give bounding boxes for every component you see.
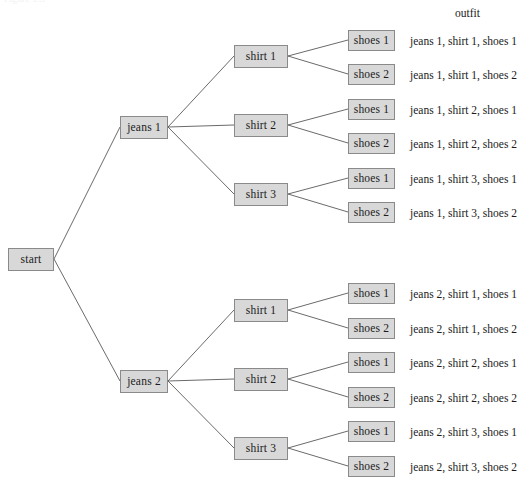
node-label: shirt 3 <box>246 443 276 455</box>
node-jeans-2[interactable]: jeans 2 <box>120 370 168 393</box>
node-shoes-7[interactable]: shoes 1 <box>348 283 395 304</box>
tree-edge <box>288 56 348 74</box>
tree-edge <box>168 127 234 194</box>
outfit-label-11: jeans 2, shirt 3, shoes 1 <box>410 427 517 439</box>
node-label: shirt 1 <box>246 305 276 317</box>
node-label: shoes 1 <box>354 426 390 438</box>
tree-diagram: Figure 1.3 outfit startjeans 1jeans 2shi… <box>0 0 525 493</box>
node-label: shoes 2 <box>354 138 390 150</box>
node-shirt-5[interactable]: shirt 2 <box>234 368 288 391</box>
node-label: jeans 2 <box>127 376 161 388</box>
node-shoes-4[interactable]: shoes 2 <box>348 133 395 154</box>
node-shoes-6[interactable]: shoes 2 <box>348 202 395 223</box>
node-shoes-8[interactable]: shoes 2 <box>348 318 395 339</box>
node-shoes-5[interactable]: shoes 1 <box>348 168 395 189</box>
tree-edge <box>288 379 348 397</box>
outfit-label-1: jeans 1, shirt 1, shoes 1 <box>410 36 517 48</box>
node-label: shoes 2 <box>354 323 390 335</box>
tree-edge <box>168 125 234 127</box>
outfit-label-6: jeans 1, shirt 3, shoes 2 <box>410 208 517 220</box>
tree-edge <box>288 362 348 379</box>
node-label: shoes 1 <box>354 357 390 369</box>
tree-edge <box>288 431 348 448</box>
node-label: shoes 1 <box>354 288 390 300</box>
tree-edge <box>288 194 348 212</box>
node-label: shirt 1 <box>246 51 276 63</box>
node-shoes-12[interactable]: shoes 2 <box>348 456 395 477</box>
tree-edge <box>168 310 234 381</box>
node-shoes-9[interactable]: shoes 1 <box>348 352 395 373</box>
caption-sliver: Figure 1.3 <box>4 0 45 4</box>
node-label: shirt 2 <box>246 374 276 386</box>
tree-edge <box>168 56 234 127</box>
tree-edge <box>288 125 348 143</box>
node-label: start <box>21 254 42 266</box>
node-shoes-3[interactable]: shoes 1 <box>348 99 395 120</box>
node-shoes-1[interactable]: shoes 1 <box>348 30 395 51</box>
column-header-outfit: outfit <box>455 8 480 20</box>
node-label: shoes 2 <box>354 461 390 473</box>
tree-edge <box>168 381 234 448</box>
node-label: shoes 2 <box>354 392 390 404</box>
tree-edge <box>288 293 348 310</box>
node-shirt-3[interactable]: shirt 3 <box>234 183 288 206</box>
tree-edge <box>288 448 348 466</box>
outfit-label-3: jeans 1, shirt 2, shoes 1 <box>410 105 517 117</box>
node-jeans-1[interactable]: jeans 1 <box>120 116 168 139</box>
node-label: shoes 1 <box>354 104 390 116</box>
tree-edge <box>54 259 120 381</box>
node-label: jeans 1 <box>127 122 161 134</box>
outfit-label-4: jeans 1, shirt 2, shoes 2 <box>410 139 517 151</box>
node-label: shoes 2 <box>354 69 390 81</box>
node-label: shoes 1 <box>354 173 390 185</box>
outfit-label-8: jeans 2, shirt 1, shoes 2 <box>410 324 517 336</box>
tree-edge <box>168 379 234 381</box>
node-shirt-4[interactable]: shirt 1 <box>234 299 288 322</box>
tree-edge <box>288 178 348 194</box>
node-start[interactable]: start <box>8 248 54 271</box>
node-label: shoes 1 <box>354 35 390 47</box>
node-shoes-2[interactable]: shoes 2 <box>348 64 395 85</box>
node-label: shirt 3 <box>246 189 276 201</box>
node-label: shirt 2 <box>246 120 276 132</box>
node-shirt-1[interactable]: shirt 1 <box>234 45 288 68</box>
tree-edge <box>288 310 348 328</box>
tree-edge <box>288 109 348 125</box>
outfit-label-2: jeans 1, shirt 1, shoes 2 <box>410 70 517 82</box>
outfit-label-7: jeans 2, shirt 1, shoes 1 <box>410 289 517 301</box>
outfit-label-5: jeans 1, shirt 3, shoes 1 <box>410 174 517 186</box>
node-shirt-2[interactable]: shirt 2 <box>234 114 288 137</box>
tree-edge <box>54 127 120 259</box>
outfit-label-12: jeans 2, shirt 3, shoes 2 <box>410 462 517 474</box>
outfit-label-9: jeans 2, shirt 2, shoes 1 <box>410 358 517 370</box>
outfit-label-10: jeans 2, shirt 2, shoes 2 <box>410 393 517 405</box>
node-shoes-10[interactable]: shoes 2 <box>348 387 395 408</box>
node-shirt-6[interactable]: shirt 3 <box>234 437 288 460</box>
node-shoes-11[interactable]: shoes 1 <box>348 421 395 442</box>
node-label: shoes 2 <box>354 207 390 219</box>
tree-edge <box>288 40 348 56</box>
